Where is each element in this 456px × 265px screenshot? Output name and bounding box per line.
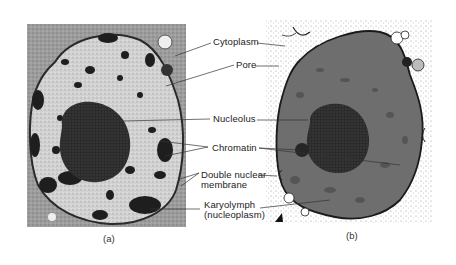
panel-b-illustration [266, 20, 432, 223]
caption-panel-b: (b) [346, 230, 358, 241]
label-karyolymph-line2: (nucleoplasm) [204, 210, 265, 220]
figure: Cytoplasm Pore Nucleolus Chromatin Doubl… [0, 0, 456, 265]
label-double-nuclear-line2: membrane [201, 180, 247, 190]
label-pore: Pore [236, 60, 256, 70]
label-nucleolus: Nucleolus [213, 114, 256, 124]
caption-panel-a: (a) [103, 233, 115, 244]
label-chromatin: Chromatin [212, 143, 257, 153]
label-cytoplasm: Cytoplasm [213, 37, 259, 47]
panel-a-micrograph [27, 24, 186, 227]
